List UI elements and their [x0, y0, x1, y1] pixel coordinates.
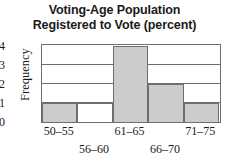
x-tick-66-70: 66–70	[137, 143, 193, 156]
bar-61-65	[113, 46, 148, 122]
x-tick-61-65: 61–65	[102, 125, 158, 138]
chart-title: Voting-Age Population Registered to Vote…	[0, 3, 229, 33]
y-tick-2: 2	[0, 78, 5, 90]
bar-66-70	[148, 84, 183, 122]
y-axis-title: Frequency	[18, 30, 33, 120]
y-tick-4: 4	[0, 40, 5, 52]
y-tick-3: 3	[0, 59, 5, 71]
bar-71-75	[184, 103, 219, 122]
chart-title-line-1: Voting-Age Population	[0, 3, 229, 18]
x-tick-50-55: 50–55	[31, 125, 87, 138]
bar-56-60	[77, 103, 112, 122]
bar-50-55	[42, 103, 77, 122]
chart-title-line-2: Registered to Vote (percent)	[0, 18, 229, 33]
y-tick-1: 1	[0, 97, 5, 109]
histogram-figure: Voting-Age Population Registered to Vote…	[0, 0, 229, 166]
plot-area: Frequency	[41, 44, 221, 123]
x-tick-56-60: 56–60	[66, 143, 122, 156]
plot-inner	[42, 45, 220, 122]
y-tick-0: 0	[0, 116, 5, 128]
x-tick-71-75: 71–75	[172, 125, 228, 138]
